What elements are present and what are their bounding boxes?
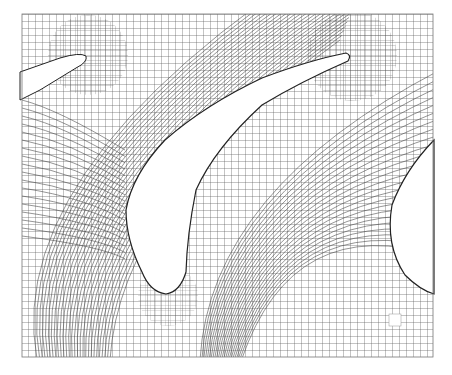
- marker-square: [389, 314, 401, 326]
- mesh-domain: [22, 0, 440, 360]
- mesh-canvas: [0, 0, 452, 375]
- mesh-figure: [0, 0, 452, 375]
